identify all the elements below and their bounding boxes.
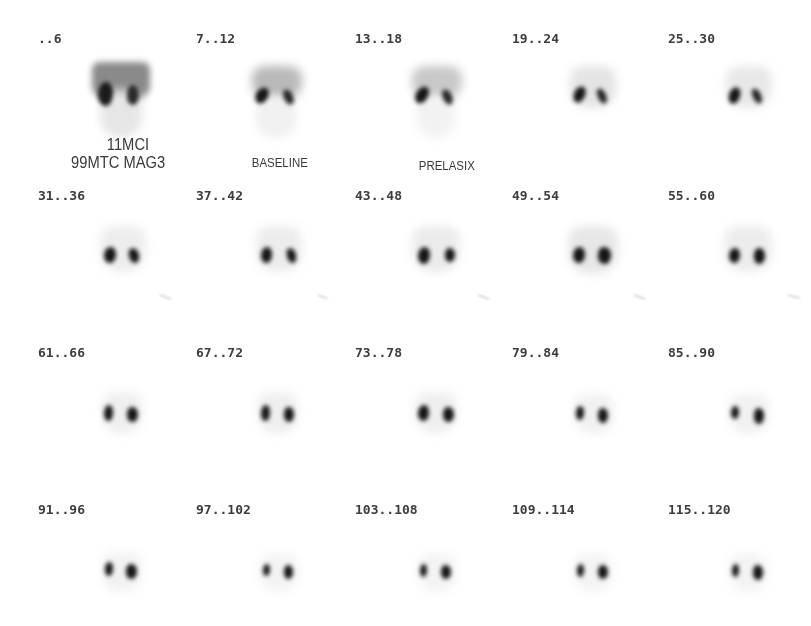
frame-label: 31..36 bbox=[38, 188, 85, 203]
scan-image-9 bbox=[568, 226, 648, 316]
dose-annotation-line2: 99MTC MAG3 bbox=[71, 154, 165, 172]
frame-label: 55..60 bbox=[668, 188, 715, 203]
frame-label: 103..108 bbox=[355, 502, 418, 517]
frame-label: 79..84 bbox=[512, 345, 559, 360]
right-kidney bbox=[598, 247, 611, 264]
scan-image-6 bbox=[100, 226, 180, 316]
artifact-trace bbox=[634, 294, 646, 300]
artifact-trace bbox=[318, 294, 328, 299]
frame-label: 43..48 bbox=[355, 188, 402, 203]
frame-label: 13..18 bbox=[355, 31, 402, 46]
frame-label: 73..78 bbox=[355, 345, 402, 360]
right-kidney bbox=[127, 85, 139, 105]
scan-image-20 bbox=[727, 552, 807, 626]
right-kidney bbox=[445, 248, 455, 262]
scan-image-5 bbox=[724, 66, 804, 156]
right-kidney bbox=[754, 248, 765, 264]
right-kidney bbox=[754, 408, 764, 424]
frame-label: 115..120 bbox=[668, 502, 731, 517]
scan-image-18 bbox=[416, 552, 496, 626]
frame-label: 49..54 bbox=[512, 188, 559, 203]
scan-image-4 bbox=[568, 66, 648, 156]
scan-image-7 bbox=[256, 226, 336, 316]
scan-image-17 bbox=[258, 552, 338, 626]
scan-image-15 bbox=[727, 392, 807, 482]
scan-image-11 bbox=[100, 392, 180, 482]
frame-label: 109..114 bbox=[512, 502, 575, 517]
right-kidney bbox=[598, 565, 608, 579]
frame-label: 37..42 bbox=[196, 188, 243, 203]
right-kidney bbox=[598, 408, 608, 423]
right-kidney bbox=[284, 565, 293, 579]
frame-label: ..6 bbox=[38, 31, 61, 46]
right-kidney bbox=[284, 407, 294, 422]
frame-label: 67..72 bbox=[196, 345, 243, 360]
scan-image-13 bbox=[413, 392, 493, 482]
right-kidney bbox=[441, 565, 451, 579]
artifact-trace bbox=[788, 294, 800, 299]
right-kidney bbox=[753, 565, 763, 580]
scan-image-2 bbox=[250, 66, 330, 156]
prelasix-annotation: PRELASIX bbox=[419, 158, 475, 173]
right-kidney bbox=[127, 407, 138, 422]
artifact-trace bbox=[160, 294, 172, 300]
frame-label: 97..102 bbox=[196, 502, 251, 517]
baseline-annotation: BASELINE bbox=[252, 155, 308, 170]
frame-label: 85..90 bbox=[668, 345, 715, 360]
frame-label: 91..96 bbox=[38, 502, 85, 517]
right-kidney bbox=[443, 407, 454, 422]
scan-image-16 bbox=[100, 552, 180, 626]
frame-label: 19..24 bbox=[512, 31, 559, 46]
scan-image-3 bbox=[408, 66, 488, 156]
scan-image-12 bbox=[256, 392, 336, 482]
right-kidney bbox=[126, 564, 137, 579]
frame-label: 7..12 bbox=[196, 31, 235, 46]
artifact-trace bbox=[478, 294, 490, 300]
scan-image-19 bbox=[572, 552, 652, 626]
frame-label: 25..30 bbox=[668, 31, 715, 46]
frame-label: 61..66 bbox=[38, 345, 85, 360]
scan-image-14 bbox=[572, 392, 652, 482]
dose-annotation-line1: 11MCI bbox=[107, 136, 149, 154]
scan-image-8 bbox=[412, 226, 492, 316]
scan-image-10 bbox=[724, 226, 804, 316]
